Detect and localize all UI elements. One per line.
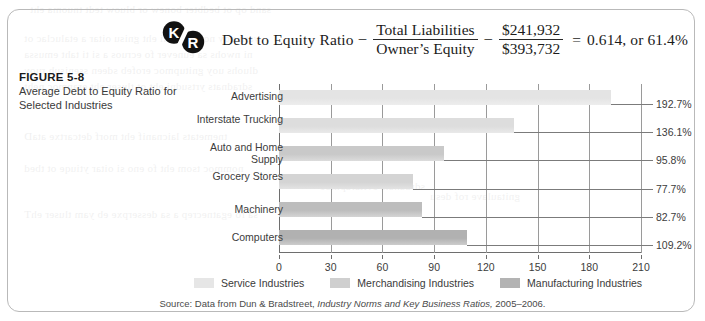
formula-fraction-ratio: Total Liabilities Owner’s Equity	[373, 22, 477, 58]
formula-numerator-1: Total Liabilities	[373, 22, 477, 39]
chart-category-label: Auto and Home Supply	[195, 142, 283, 165]
chart-x-tick-label: 120	[477, 261, 495, 273]
chart-value-label: 77.7%	[656, 183, 686, 195]
chart-gridline	[589, 84, 590, 253]
chart-value-label: 136.1%	[656, 126, 692, 138]
legend-item: Merchandising Industries	[330, 277, 474, 289]
chart-gridline	[538, 84, 539, 253]
formula-operator-2: –	[485, 30, 493, 49]
chart-x-tick	[486, 255, 487, 259]
chart-bar	[279, 146, 444, 161]
chart-x-tick	[589, 255, 590, 259]
formula-equals-sign: =	[572, 31, 581, 49]
kr-brand-logo-icon: K R	[161, 20, 207, 54]
chart-bar	[279, 230, 467, 245]
svg-text:R: R	[188, 34, 199, 51]
debt-to-equity-formula: Debt to Equity Ratio – Total Liabilities…	[222, 22, 688, 58]
svg-text:K: K	[169, 24, 180, 41]
source-prefix: Source: Data from Dun & Bradstreet,	[159, 298, 317, 309]
chart-value-leader-line	[413, 189, 653, 190]
chart-bar	[279, 90, 611, 105]
legend-label: Merchandising Industries	[357, 277, 474, 289]
figure-caption: FIGURE 5-8 Average Debt to Equity Ratio …	[19, 71, 179, 112]
chart-value-label: 192.7%	[656, 98, 692, 110]
chart-gridline	[331, 84, 332, 253]
source-publication-title: Industry Norms and Key Business Ratios,	[317, 298, 492, 309]
formula-label: Debt to Equity Ratio	[222, 31, 354, 49]
formula-fraction-values: $241,932 $393,732	[499, 22, 563, 58]
chart-bar	[279, 202, 422, 217]
chart-x-tick-label: 30	[325, 261, 337, 273]
chart-x-tick	[641, 255, 642, 259]
chart-x-tick	[382, 255, 383, 259]
chart-x-tick	[434, 255, 435, 259]
chart-legend: Service IndustriesMerchandising Industri…	[188, 277, 648, 289]
legend-color-swatch	[194, 278, 214, 288]
chart-x-tick	[331, 255, 332, 259]
chart-gridline	[486, 84, 487, 253]
chart-category-label: Machinery	[195, 204, 283, 216]
formula-operator-1: –	[359, 30, 367, 49]
legend-item: Manufacturing Industries	[500, 277, 642, 289]
chart-value-leader-line	[611, 104, 653, 105]
chart-x-tick-label: 180	[581, 261, 599, 273]
figure-number: FIGURE 5-8	[19, 71, 179, 83]
legend-item: Service Industries	[194, 277, 304, 289]
chart-x-tick-label: 60	[377, 261, 389, 273]
chart-gridline	[279, 84, 280, 253]
chart-category-label: Grocery Stores	[195, 171, 283, 183]
chart-value-leader-line	[467, 245, 653, 246]
chart-x-tick-label: 210	[632, 261, 650, 273]
chart-x-tick-label: 90	[428, 261, 440, 273]
source-suffix: 2005–2006.	[493, 298, 546, 309]
legend-label: Service Industries	[221, 277, 304, 289]
legend-color-swatch	[330, 278, 350, 288]
chart-value-leader-line	[514, 132, 653, 133]
chart-bar	[279, 174, 413, 189]
chart-value-leader-line	[422, 217, 653, 218]
chart-x-tick	[538, 255, 539, 259]
formula-denominator-2: $393,732	[499, 39, 563, 57]
chart-category-label: Advertising	[195, 91, 283, 103]
chart-source-note: Source: Data from Dun & Bradstreet, Indu…	[0, 298, 705, 309]
figure-title: Average Debt to Equity Ratio for Selecte…	[19, 84, 179, 112]
chart-gridline	[641, 84, 642, 253]
legend-label: Manufacturing Industries	[527, 277, 642, 289]
debt-to-equity-bar-chart: 0306090120150180210Advertising192.7%Inte…	[188, 84, 648, 260]
formula-result: 0.614, or 61.4%	[587, 31, 688, 49]
chart-category-label: Computers	[195, 232, 283, 244]
chart-plot-area	[279, 84, 641, 253]
chart-x-axis-line	[279, 252, 641, 253]
formula-denominator-1: Owner’s Equity	[373, 39, 477, 57]
formula-numerator-2: $241,932	[499, 22, 563, 39]
chart-bar	[279, 118, 514, 133]
chart-gridline	[434, 84, 435, 253]
chart-value-label: 95.8%	[656, 154, 686, 166]
chart-category-label: Interstate Trucking	[195, 114, 283, 126]
chart-x-tick-label: 150	[529, 261, 547, 273]
chart-value-label: 82.7%	[656, 211, 686, 223]
chart-gridline	[382, 84, 383, 253]
chart-x-tick	[279, 255, 280, 259]
chart-value-leader-line	[444, 160, 653, 161]
chart-x-tick-label: 0	[276, 261, 282, 273]
legend-color-swatch	[500, 278, 520, 288]
chart-value-label: 109.2%	[656, 239, 692, 251]
